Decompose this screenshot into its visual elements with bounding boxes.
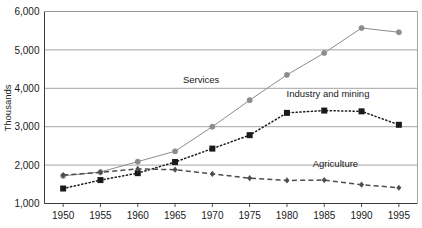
- y-axis-title: Thousands: [2, 84, 13, 131]
- x-axis-tick-labels: 1950195519601965197019751980198519901995: [52, 210, 410, 221]
- y-tick-label: 1,000: [14, 198, 39, 209]
- line-chart: 1,0002,0003,0004,0005,0006,000 195019551…: [0, 0, 422, 228]
- data-point-marker: [359, 108, 365, 114]
- data-point-marker: [172, 159, 178, 165]
- series-annotation-label: Agriculture: [313, 158, 358, 169]
- y-tick-label: 2,000: [14, 160, 39, 171]
- x-tick-label: 1960: [127, 210, 150, 221]
- data-point-marker: [284, 177, 289, 183]
- series-annotations: ServicesIndustry and miningAgriculture: [183, 74, 369, 169]
- y-axis-title-text: Thousands: [2, 84, 13, 131]
- data-point-marker: [247, 98, 252, 103]
- data-point-marker: [210, 171, 215, 177]
- data-point-marker: [396, 122, 402, 128]
- series-annotation-label: Services: [183, 74, 220, 85]
- data-point-marker: [97, 177, 103, 183]
- x-tick-label: 1950: [52, 210, 75, 221]
- data-point-marker: [247, 132, 253, 138]
- data-point-marker: [284, 110, 290, 116]
- data-point-marker: [284, 72, 289, 77]
- data-point-marker: [60, 186, 66, 192]
- x-tick-label: 1990: [350, 210, 373, 221]
- data-point-marker: [172, 149, 177, 154]
- data-point-marker: [396, 30, 401, 35]
- series-line: [63, 169, 399, 188]
- data-point-marker: [359, 182, 364, 188]
- y-tick-label: 5,000: [14, 45, 39, 56]
- data-point-marker: [322, 50, 327, 55]
- series-annotation-label: Industry and mining: [287, 88, 370, 99]
- y-tick-label: 4,000: [14, 83, 39, 94]
- x-tick-label: 1995: [388, 210, 411, 221]
- data-point-marker: [396, 185, 401, 191]
- data-point-marker: [321, 108, 327, 114]
- series-line: [63, 111, 399, 189]
- y-tick-label: 3,000: [14, 121, 39, 132]
- y-tick-label: 6,000: [14, 6, 39, 17]
- x-tick-label: 1980: [276, 210, 299, 221]
- x-tick-label: 1965: [164, 210, 187, 221]
- series-industry-and-mining: [60, 108, 402, 192]
- x-tick-label: 1970: [201, 210, 224, 221]
- x-tick-label: 1975: [239, 210, 262, 221]
- data-point-marker: [209, 146, 215, 152]
- data-point-marker: [173, 167, 178, 173]
- data-point-marker: [247, 175, 252, 181]
- data-point-marker: [135, 159, 140, 164]
- x-tick-label: 1985: [313, 210, 336, 221]
- data-point-marker: [210, 124, 215, 129]
- series-services: [61, 25, 402, 178]
- data-point-marker: [322, 177, 327, 183]
- y-axis-tick-labels: 1,0002,0003,0004,0005,0006,000: [14, 6, 39, 209]
- data-point-marker: [359, 25, 364, 30]
- chart-canvas: 1,0002,0003,0004,0005,0006,000 195019551…: [0, 0, 422, 228]
- x-axis-ticks: [63, 204, 399, 208]
- x-tick-label: 1955: [89, 210, 112, 221]
